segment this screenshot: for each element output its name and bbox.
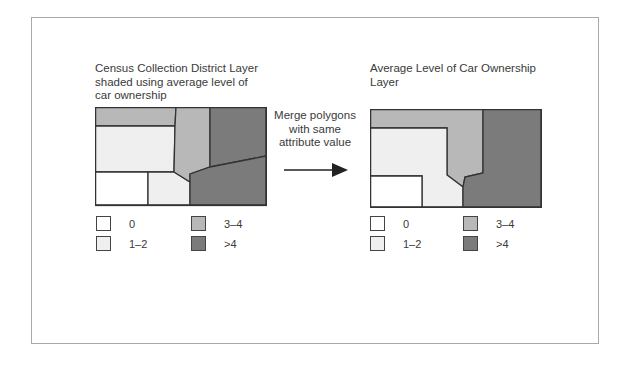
legend-swatch-gt4 xyxy=(463,236,478,251)
legend-swatch-0 xyxy=(96,216,111,231)
legend-label: 0 xyxy=(129,218,135,230)
district-polygon xyxy=(95,172,148,205)
legend-label: 1–2 xyxy=(129,238,147,250)
caption-line-2: with same xyxy=(270,123,360,137)
caption-line-1: Merge polygons xyxy=(270,109,360,123)
legend-swatch-gt4 xyxy=(191,236,206,251)
legend-item-1-2: 1–2 xyxy=(370,236,421,251)
legend-item-0: 0 xyxy=(96,216,135,231)
right-panel-title: Average Level of Car Ownership Layer xyxy=(370,62,536,89)
left-title-line-2: shaded using average level of xyxy=(95,76,258,90)
legend-swatch-1-2 xyxy=(96,236,111,251)
district-polygon xyxy=(95,107,176,126)
legend-item-0: 0 xyxy=(370,216,409,231)
right-title-line-1: Average Level of Car Ownership xyxy=(370,62,536,76)
left-panel-title: Census Collection District Layer shaded … xyxy=(95,62,258,103)
census-district-map xyxy=(95,107,267,207)
legend-item-3-4: 3–4 xyxy=(191,216,242,231)
legend-swatch-1-2 xyxy=(370,236,385,251)
legend-label: 3–4 xyxy=(496,218,514,230)
legend-label: 3–4 xyxy=(224,218,242,230)
legend-label: >4 xyxy=(496,238,509,250)
legend-item-gt4: >4 xyxy=(191,236,237,251)
legend-label: 0 xyxy=(403,218,409,230)
legend-item-3-4: 3–4 xyxy=(463,216,514,231)
legend-swatch-0 xyxy=(370,216,385,231)
district-polygon xyxy=(95,126,175,172)
legend-item-gt4: >4 xyxy=(463,236,509,251)
legend-label: 1–2 xyxy=(403,238,421,250)
legend-item-1-2: 1–2 xyxy=(96,236,147,251)
left-title-line-1: Census Collection District Layer xyxy=(95,62,258,76)
legend-swatch-3-4 xyxy=(463,216,478,231)
left-title-line-3: car ownership xyxy=(95,89,258,103)
right-arrow-icon xyxy=(284,162,350,178)
merged-ownership-map xyxy=(370,109,542,208)
merge-caption: Merge polygons with same attribute value xyxy=(270,109,360,150)
legend-swatch-3-4 xyxy=(191,216,206,231)
legend-label: >4 xyxy=(224,238,237,250)
right-title-line-2: Layer xyxy=(370,76,536,90)
merged-polygon xyxy=(370,176,422,207)
caption-line-3: attribute value xyxy=(270,136,360,150)
